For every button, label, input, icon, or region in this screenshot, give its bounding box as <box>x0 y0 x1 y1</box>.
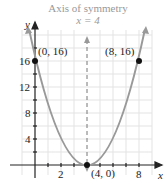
y-axis-label: y <box>25 19 30 30</box>
tick-x-2: 2 <box>58 169 64 180</box>
point-label-0-16: (0, 16) <box>38 46 67 57</box>
tick-y-12: 12 <box>19 82 30 93</box>
tick-y-8: 8 <box>25 108 31 119</box>
tick-y-16: 16 <box>19 56 30 67</box>
tick-y-4: 4 <box>25 134 31 145</box>
point-vertex-4-0 <box>84 162 90 168</box>
point-label-vertex: (4, 0) <box>91 168 115 179</box>
symmetry-arrow-up <box>84 36 90 43</box>
point-8-16 <box>136 58 142 64</box>
point-label-8-16: (8, 16) <box>105 46 134 57</box>
chart-subtitle: x = 4 <box>48 15 128 26</box>
x-axis-label: x <box>158 170 163 181</box>
tick-x-8: 8 <box>136 169 142 180</box>
parabola-arrow-right <box>142 26 149 34</box>
chart-title: Axis of symmetry <box>48 3 128 14</box>
point-0-16 <box>32 58 38 64</box>
